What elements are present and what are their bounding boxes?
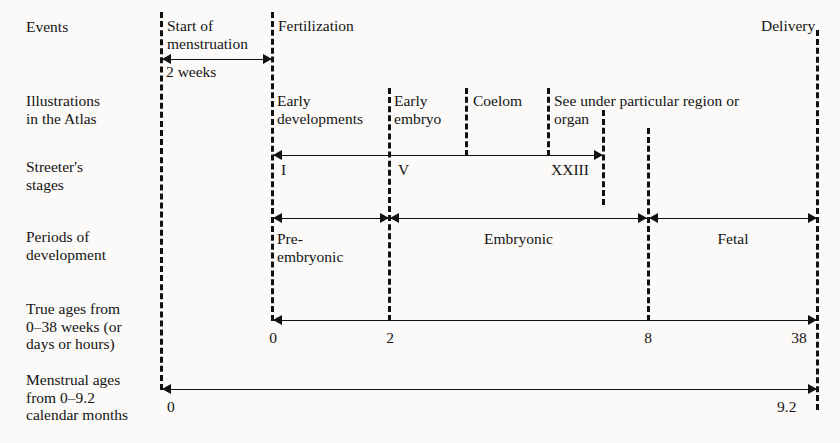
period-fetal: Fetal bbox=[649, 230, 817, 248]
two-weeks-label: 2 weeks bbox=[166, 63, 216, 81]
illustration-see-under-region-or-organ: See under particular region or organ bbox=[554, 92, 816, 127]
arrow-shaft bbox=[162, 389, 817, 390]
row-label-events: Events bbox=[26, 18, 68, 36]
row-label-true-ages: True ages from 0–38 weeks (or days or ho… bbox=[26, 300, 122, 353]
event-start-of-menstruation: Start of menstruation bbox=[167, 17, 248, 52]
row-label-menstrual-ages: Menstrual ages from 0–9.2 calendar month… bbox=[26, 371, 128, 424]
period-pre-embryonic: Pre- embryonic bbox=[277, 230, 343, 265]
illustration-coelom: Coelom bbox=[473, 92, 522, 110]
guide-line-coelom-start bbox=[465, 88, 468, 156]
true-age-tick-0: 0 bbox=[261, 329, 285, 347]
arrow-shaft bbox=[162, 59, 272, 60]
arrow-head-right bbox=[808, 213, 817, 223]
arrow-head-right bbox=[594, 150, 603, 160]
row-label-illustrations: Illustrations in the Atlas bbox=[26, 92, 100, 127]
streeter-stage-xxiii: XXIII bbox=[551, 161, 589, 179]
arrow-head-left bbox=[273, 315, 282, 325]
arrow-head-left bbox=[273, 150, 282, 160]
menstrual-age-tick-9-2: 9.2 bbox=[777, 398, 796, 416]
streeter-stage-i: I bbox=[281, 161, 286, 179]
arrow-head-left bbox=[390, 213, 399, 223]
fetal-span-arrow bbox=[649, 213, 817, 225]
streeter-stage-v: V bbox=[398, 161, 409, 179]
menstrual-age-tick-0: 0 bbox=[167, 398, 175, 416]
guide-line-week-2 bbox=[388, 88, 391, 321]
arrow-shaft bbox=[273, 218, 389, 219]
embryonic-span-arrow bbox=[390, 213, 647, 225]
true-age-tick-2: 2 bbox=[378, 329, 402, 347]
arrow-head-right bbox=[263, 54, 272, 64]
illustration-early-developments: Early developments bbox=[277, 92, 363, 127]
arrow-shaft bbox=[273, 155, 603, 156]
row-label-streeter-stages: Streeter's stages bbox=[26, 158, 83, 193]
arrow-shaft bbox=[390, 218, 647, 219]
illustration-early-embryo: Early embryo bbox=[394, 92, 441, 127]
arrow-head-left bbox=[162, 384, 171, 394]
true-ages-axis-arrow bbox=[273, 315, 817, 327]
event-fertilization: Fertilization bbox=[278, 17, 354, 35]
prenatal-timeline-diagram: Events Start of menstruation Fertilizati… bbox=[0, 0, 840, 443]
arrow-head-left bbox=[273, 213, 282, 223]
arrow-shaft bbox=[649, 218, 817, 219]
arrow-head-right bbox=[380, 213, 389, 223]
guide-line-see-under-start bbox=[547, 88, 550, 156]
menstrual-ages-axis-arrow bbox=[162, 384, 817, 396]
period-embryonic: Embryonic bbox=[390, 230, 647, 248]
arrow-head-right bbox=[808, 384, 817, 394]
arrow-head-left bbox=[649, 213, 658, 223]
true-age-tick-38: 38 bbox=[786, 329, 812, 347]
arrow-head-right bbox=[638, 213, 647, 223]
true-age-tick-8: 8 bbox=[636, 329, 660, 347]
event-delivery: Delivery bbox=[761, 17, 815, 35]
arrow-shaft bbox=[273, 320, 817, 321]
pre-embryonic-span-arrow bbox=[273, 213, 389, 225]
arrow-head-right bbox=[808, 315, 817, 325]
row-label-periods-of-development: Periods of development bbox=[26, 228, 106, 263]
guide-line-start-menstruation bbox=[160, 12, 163, 390]
